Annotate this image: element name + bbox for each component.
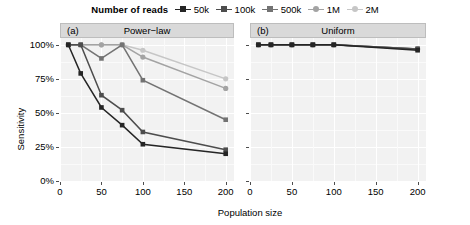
legend-key-icon — [308, 4, 324, 14]
y-tick — [56, 45, 59, 46]
data-point — [99, 42, 104, 47]
data-point — [120, 123, 125, 128]
legend-title: Number of reads — [91, 4, 168, 15]
y-tick-label: 50% — [16, 107, 54, 118]
data-point — [223, 76, 228, 81]
legend-label: 2M — [366, 4, 379, 15]
data-point — [141, 142, 146, 147]
y-tick — [246, 113, 249, 114]
legend-label: 50k — [194, 4, 209, 15]
data-point — [140, 48, 145, 53]
y-tick-label: 75% — [16, 73, 54, 84]
legend-item-500k[interactable]: 500k — [262, 4, 301, 15]
figure-root: Number of reads 50k100k500k1M2M Sensitiv… — [0, 0, 470, 225]
series-line — [68, 45, 225, 150]
legend-key-icon — [175, 4, 191, 14]
x-tick — [60, 182, 61, 185]
legend-key-icon — [262, 4, 278, 14]
x-tick-label: 0 — [46, 186, 74, 197]
data-point — [120, 108, 125, 113]
series-500k — [256, 43, 420, 52]
data-point — [141, 78, 146, 83]
legend-item-100k[interactable]: 100k — [216, 4, 255, 15]
panel-title: Uniform — [251, 25, 425, 36]
y-tick-label: 25% — [16, 141, 54, 152]
data-point — [78, 71, 83, 76]
series-2m — [66, 42, 229, 81]
data-point — [269, 43, 274, 48]
data-point — [223, 117, 228, 122]
data-point — [311, 43, 316, 48]
y-tick-label: 100% — [16, 39, 54, 50]
x-axis-title: Population size — [60, 207, 440, 218]
y-tick-label: 0% — [16, 175, 54, 186]
legend-label: 500k — [281, 4, 302, 15]
x-tick-label: 50 — [87, 186, 115, 197]
x-tick — [250, 182, 251, 185]
x-tick — [226, 182, 227, 185]
legend-item-1m[interactable]: 1M — [308, 4, 340, 15]
x-tick-label: 50 — [278, 186, 306, 197]
y-tick — [246, 79, 249, 80]
legend-label: 100k — [235, 4, 256, 15]
series-50k — [66, 43, 228, 157]
x-tick — [184, 182, 185, 185]
x-tick-label: 200 — [404, 186, 432, 197]
data-point — [141, 130, 146, 135]
legend-label: 1M — [327, 4, 340, 15]
data-point — [66, 43, 71, 48]
series-100k — [256, 43, 420, 52]
data-point — [223, 151, 228, 156]
data-point — [290, 43, 295, 48]
data-point — [120, 43, 125, 48]
plot-area-a — [60, 38, 234, 181]
data-point — [223, 147, 228, 152]
panel-strip-b: (b)Uniform — [250, 23, 426, 38]
y-tick — [56, 79, 59, 80]
series-line — [68, 45, 225, 120]
x-tick — [334, 182, 335, 185]
legend-item-50k[interactable]: 50k — [175, 4, 209, 15]
x-tick-label: 0 — [236, 186, 264, 197]
legend-item-2m[interactable]: 2M — [347, 4, 379, 15]
data-point — [99, 93, 104, 98]
data-point — [415, 48, 420, 53]
x-tick-label: 150 — [170, 186, 198, 197]
legend-key-icon — [216, 4, 232, 14]
data-point — [140, 54, 145, 59]
data-point — [256, 43, 261, 48]
series-canvas — [60, 38, 234, 181]
panel-title: Power−law — [61, 25, 233, 36]
series-1m — [256, 42, 420, 51]
x-tick — [143, 182, 144, 185]
data-point — [99, 56, 104, 61]
legend-key-icon — [347, 4, 363, 14]
series-2m — [256, 42, 420, 51]
x-tick-label: 100 — [320, 186, 348, 197]
y-tick — [246, 147, 249, 148]
plot-area-b — [250, 38, 426, 181]
x-tick — [101, 182, 102, 185]
legend-items: 50k100k500k1M2M — [175, 4, 378, 15]
data-point — [223, 86, 228, 91]
y-tick — [246, 45, 249, 46]
series-canvas — [250, 38, 426, 181]
y-tick — [56, 147, 59, 148]
panel-strip-a: (a)Power−law — [60, 23, 234, 38]
series-line — [68, 45, 225, 154]
x-tick — [418, 182, 419, 185]
x-tick-label: 150 — [362, 186, 390, 197]
data-point — [332, 43, 337, 48]
x-tick — [376, 182, 377, 185]
y-tick — [56, 181, 59, 182]
data-point — [99, 105, 104, 110]
legend: Number of reads 50k100k500k1M2M — [0, 1, 470, 17]
data-point — [78, 43, 83, 48]
series-500k — [66, 43, 228, 123]
x-tick-label: 100 — [129, 186, 157, 197]
x-tick — [292, 182, 293, 185]
y-tick — [56, 113, 59, 114]
y-tick — [246, 181, 249, 182]
